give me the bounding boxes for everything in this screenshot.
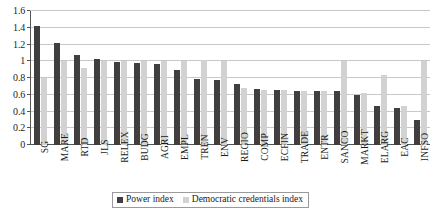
plot-area [30,11,430,145]
x-axis-tick-label: TRADE [300,131,310,164]
bar-power-index [54,43,60,145]
x-axis-tick: RELEX [110,147,130,192]
bars-layer [30,11,430,145]
x-axis-tick: ENTR [310,147,330,192]
bar-power-index [74,55,80,145]
legend-label: Power index [126,194,174,205]
bar-group [230,11,250,145]
bar-group [190,11,210,145]
bar-group [150,11,170,145]
bar-group [90,11,110,145]
bar-group [210,11,230,145]
bar-group [350,11,370,145]
bar-group [370,11,390,145]
bar-group [130,11,150,145]
x-axis-tick: EMPL [170,147,190,192]
y-axis-tick-mark [27,60,30,61]
y-axis-tick-mark [27,94,30,95]
bar-democratic-credentials-index [201,60,207,145]
bar-democratic-credentials-index [81,68,87,145]
bar-democratic-credentials-index [161,61,167,145]
bar-power-index [254,89,260,145]
y-axis-tick-label: 0.6 [13,90,25,100]
y-axis-tick-label: 1.2 [13,40,25,50]
x-axis-tick: TRADE [290,147,310,192]
x-axis-tick-label: SANCO [340,130,350,163]
bar-power-index [274,90,280,145]
x-axis-tick-label: REGIO [240,132,250,162]
x-axis-tick: ECFIN [270,147,290,192]
x-axis-tick-label: ENV [220,137,230,157]
x-axis-tick: INFSO [410,147,430,192]
bar-group [410,11,430,145]
y-axis-tick-label: 1.6 [13,6,25,16]
x-axis-tick-label: ELARG [380,131,390,164]
x-axis-tick: MARKT [350,147,370,192]
x-axis-tick: JLS [90,147,110,192]
x-axis-tick-label: ECFIN [280,133,290,161]
x-axis-tick-label: COMP [260,133,270,161]
legend-item: Democratic credentials index [183,194,303,205]
bar-group [50,11,70,145]
x-axis-tick-label: AGRI [160,135,170,159]
y-axis-tick-mark [27,10,30,11]
bar-group [390,11,410,145]
bar-power-index [234,84,240,145]
bar-power-index [394,108,400,145]
bar-group [30,11,50,145]
x-axis-tick: AGRI [150,147,170,192]
y-axis-tick-mark [27,27,30,28]
bar-power-index [214,80,220,145]
x-axis-tick-label: MARE [60,133,70,161]
bar-group [110,11,130,145]
y-axis-tick-label: 0.8 [13,73,25,83]
bar-democratic-credentials-index [41,78,47,145]
bar-power-index [374,106,380,145]
bar-group [70,11,90,145]
bar-power-index [354,95,360,145]
bar-democratic-credentials-index [181,61,187,145]
bar-power-index [34,26,40,145]
bar-group [310,11,330,145]
bar-power-index [334,91,340,145]
x-axis-tick-label: ENTR [320,134,330,160]
chart-legend: Power indexDemocratic credentials index [112,192,309,208]
bar-power-index [174,70,180,145]
legend-swatch-democratic [183,197,189,203]
x-axis: SGMARERTDJLSRELEXBUDGAGRIEMPLTRENENVREGI… [30,147,430,192]
y-axis-tick-mark [27,111,30,112]
bar-group [270,11,290,145]
bar-power-index [194,79,200,145]
x-axis-tick-label: SG [40,141,50,154]
x-axis-tick: REGIO [230,147,250,192]
bar-power-index [414,120,420,145]
x-axis-tick: MARE [50,147,70,192]
y-axis: 00.20.40.60.811.21.41.6 [0,11,28,145]
y-axis-tick-label: 0 [20,140,25,150]
y-axis-tick-label: 1 [20,56,25,66]
x-axis-tick-label: BUDG [140,133,150,161]
x-axis-tick: ENV [210,147,230,192]
y-axis-tick-mark [27,144,30,145]
x-axis-tick-label: MARKT [360,129,370,164]
bar-group [330,11,350,145]
y-axis-tick-label: 0.4 [13,107,25,117]
x-axis-tick-label: EAC [400,137,410,157]
legend-label: Democratic credentials index [192,194,303,205]
y-axis-tick-mark [27,127,30,128]
x-axis-tick-label: TREN [200,134,210,160]
bar-chart: 00.20.40.60.811.21.41.6 SGMARERTDJLSRELE… [0,0,437,212]
x-axis-tick: COMP [250,147,270,192]
bar-power-index [314,91,320,145]
x-axis-tick-label: JLS [100,139,110,154]
x-axis-tick-label: RTD [80,137,90,156]
bar-power-index [134,63,140,145]
legend-item: Power index [117,194,174,205]
x-axis-tick-label: EMPL [180,134,190,160]
bar-group [170,11,190,145]
bar-democratic-credentials-index [221,61,227,145]
legend-swatch-power [117,197,123,203]
bar-power-index [114,62,120,145]
y-axis-tick-mark [27,44,30,45]
x-axis-tick-label: INFSO [420,133,430,161]
